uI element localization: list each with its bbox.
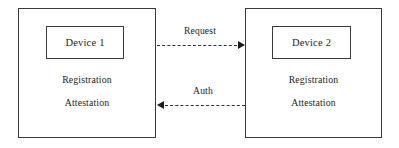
request-connector-line xyxy=(157,45,237,46)
request-connector-label: Request xyxy=(160,25,240,36)
request-arrowhead-icon xyxy=(238,41,245,49)
device-2-title-box: Device 2 xyxy=(272,26,351,59)
device-1-registration-label: Registration xyxy=(18,74,156,85)
auth-connector-label: Auth xyxy=(163,85,243,96)
device-1-title-box: Device 1 xyxy=(46,26,124,59)
diagram-canvas: Device 1 Registration Attestation Device… xyxy=(0,0,399,148)
device-2-attestation-label: Attestation xyxy=(245,97,382,108)
auth-arrowhead-icon xyxy=(157,101,164,109)
device-2-title: Device 2 xyxy=(292,37,331,48)
auth-connector-line xyxy=(165,105,245,106)
device-1-attestation-label: Attestation xyxy=(18,97,156,108)
device-2-registration-label: Registration xyxy=(245,74,382,85)
device-1-title: Device 1 xyxy=(65,37,104,48)
